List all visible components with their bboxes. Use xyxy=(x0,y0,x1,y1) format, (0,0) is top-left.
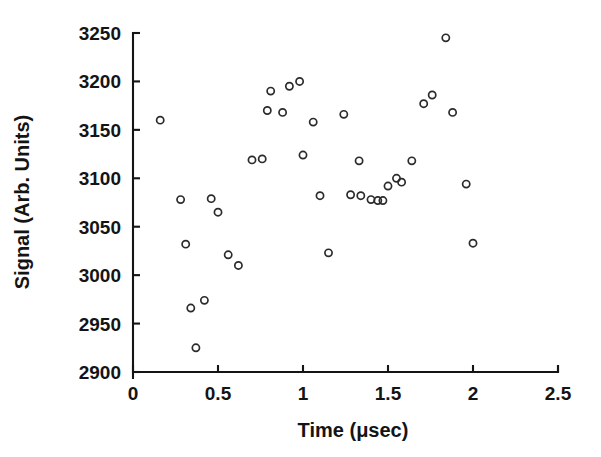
data-point xyxy=(299,151,306,158)
y-tick-label-7: 3250 xyxy=(79,23,121,44)
data-point xyxy=(201,297,208,304)
y-tick-labels: 29002950300030503100315032003250 xyxy=(79,23,121,383)
data-point xyxy=(286,83,293,90)
data-point xyxy=(340,111,347,118)
data-point xyxy=(449,109,456,116)
y-tick-label-2: 3000 xyxy=(79,265,121,286)
y-axis-title: Signal (Arb. Units) xyxy=(11,115,33,289)
x-tick-label-3: 1.5 xyxy=(375,383,402,404)
data-point xyxy=(316,192,323,199)
data-point xyxy=(177,196,184,203)
data-points xyxy=(157,34,477,351)
x-tick-label-0: 0 xyxy=(128,383,139,404)
data-point xyxy=(208,195,215,202)
data-point xyxy=(296,78,303,85)
data-point xyxy=(214,209,221,216)
data-point xyxy=(248,156,255,163)
x-axis-title: Time (μsec) xyxy=(298,419,409,441)
data-point xyxy=(420,100,427,107)
x-tick-label-2: 1 xyxy=(298,383,309,404)
data-point xyxy=(357,192,364,199)
data-point xyxy=(182,241,189,248)
data-point xyxy=(267,88,274,95)
data-point xyxy=(157,117,164,124)
tick-marks xyxy=(133,33,558,379)
data-point xyxy=(469,240,476,247)
data-point xyxy=(384,182,391,189)
x-tick-label-5: 2.5 xyxy=(545,383,572,404)
data-point xyxy=(259,155,266,162)
data-point xyxy=(429,91,436,98)
data-point xyxy=(264,107,271,114)
data-point xyxy=(442,34,449,41)
y-tick-label-6: 3200 xyxy=(79,71,121,92)
data-point xyxy=(463,181,470,188)
data-point xyxy=(398,179,405,186)
data-point xyxy=(325,249,332,256)
x-tick-label-4: 2 xyxy=(468,383,479,404)
data-point xyxy=(379,197,386,204)
data-point xyxy=(356,157,363,164)
scatter-plot-figure: 00.511.522.5 290029503000305031003150320… xyxy=(0,0,601,457)
x-tick-labels: 00.511.522.5 xyxy=(128,383,572,404)
data-point xyxy=(187,304,194,311)
data-point xyxy=(235,262,242,269)
y-tick-label-1: 2950 xyxy=(79,314,121,335)
y-tick-label-3: 3050 xyxy=(79,217,121,238)
y-tick-label-0: 2900 xyxy=(79,362,121,383)
data-point xyxy=(310,119,317,126)
data-point xyxy=(192,344,199,351)
data-point xyxy=(225,251,232,258)
axes xyxy=(133,33,558,372)
data-point xyxy=(279,109,286,116)
data-point xyxy=(347,191,354,198)
y-tick-label-4: 3100 xyxy=(79,168,121,189)
y-tick-label-5: 3150 xyxy=(79,120,121,141)
x-tick-label-1: 0.5 xyxy=(205,383,232,404)
data-point xyxy=(408,157,415,164)
plot-canvas: 00.511.522.5 290029503000305031003150320… xyxy=(0,0,601,457)
axis-spine xyxy=(133,33,558,372)
